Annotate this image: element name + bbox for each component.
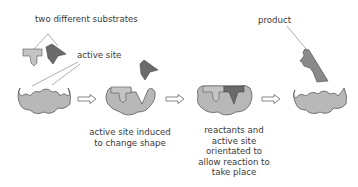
arrow-right-icon-1 xyxy=(78,95,96,104)
arrow-right-icon-2 xyxy=(166,95,184,104)
caption-step3-line4: allow reaction to xyxy=(188,157,280,168)
caption-step2-line1: active site induced xyxy=(82,127,178,138)
substrate-light-icon xyxy=(23,49,42,66)
enzyme-stage4-icon xyxy=(294,88,347,114)
caption-step3-line2: active site xyxy=(188,136,280,147)
label-product: product xyxy=(258,15,291,26)
caption-step3-line1: reactants and xyxy=(188,125,280,136)
active-site-pointer-2 xyxy=(52,64,80,85)
caption-step3-line3: orientated to xyxy=(188,146,280,157)
substrate-dark-icon xyxy=(46,44,66,64)
arrow-right-icon-3 xyxy=(262,95,280,104)
product-icon xyxy=(300,49,328,82)
induced-fit-diagram xyxy=(0,0,358,187)
enzyme-stage1-icon xyxy=(18,88,71,114)
caption-step2-line2: to change shape xyxy=(82,138,178,149)
caption-step3: reactants and active site orientated to … xyxy=(188,125,280,178)
substrate-dark-approaching-icon xyxy=(140,60,158,80)
caption-step3-line5: take place xyxy=(188,167,280,178)
label-active-site: active site xyxy=(77,50,121,61)
label-two-substrates: two different substrates xyxy=(35,14,138,25)
caption-step2: active site induced to change shape xyxy=(82,127,178,148)
enzyme-substrate-complex-icon xyxy=(198,85,253,115)
product-pointer xyxy=(287,26,306,49)
leader-lines xyxy=(32,26,306,86)
